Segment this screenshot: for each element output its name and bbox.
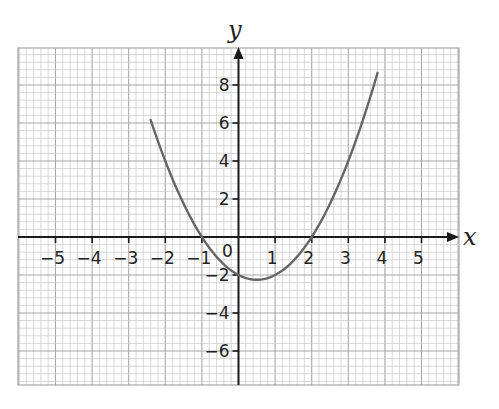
y-axis-arrow-icon: [234, 47, 244, 59]
y-tick-label: 4: [219, 151, 230, 171]
y-tick-label: −6: [204, 341, 229, 361]
x-tick-label: −4: [77, 248, 102, 268]
origin-label: 0: [222, 241, 233, 261]
x-tick-label: 5: [413, 248, 424, 268]
x-axis-label: x: [463, 223, 477, 251]
x-tick-label: 4: [376, 248, 387, 268]
x-tick-label: −2: [150, 248, 175, 268]
x-axis-arrow-icon: [447, 232, 459, 242]
axes: −5−4−3−2−112345 8642−2−4−6: [18, 47, 459, 385]
y-tick-label: 6: [219, 113, 230, 133]
x-tick-label: 2: [303, 248, 314, 268]
y-tick-label: −4: [204, 303, 229, 323]
y-tick-label: −2: [204, 265, 229, 285]
y-tick-label: 8: [219, 75, 230, 95]
x-tick-label: −3: [113, 248, 138, 268]
x-tick-label: −5: [40, 248, 65, 268]
y-axis-label: y: [227, 16, 242, 44]
chart-canvas: −5−4−3−2−112345 8642−2−4−6 x y 0: [0, 0, 499, 409]
x-tick-label: 1: [267, 248, 278, 268]
y-tick-label: 2: [219, 189, 230, 209]
x-tick-label: 3: [340, 248, 351, 268]
